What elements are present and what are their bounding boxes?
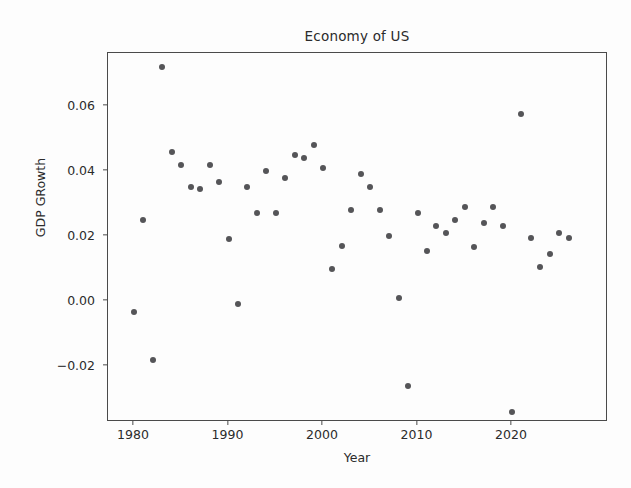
data-point [150,357,156,363]
data-point [566,235,572,241]
x-tick-mark [132,421,133,425]
data-point [311,142,317,148]
data-point [169,149,175,155]
data-point [273,210,279,216]
data-point [433,223,439,229]
data-point [518,111,524,117]
y-tick-label: 0.06 [67,98,95,113]
data-point [329,266,335,272]
data-point [159,64,165,70]
y-axis-label: GDP GRowth [33,128,48,268]
data-point [320,165,326,171]
y-tick-mark [103,364,107,365]
y-tick-mark [103,299,107,300]
scatter-plot-axes [107,52,607,421]
x-tick-label: 2000 [306,427,338,442]
x-tick-mark [416,421,417,425]
data-point [197,186,203,192]
data-point [216,179,222,185]
data-point [556,230,562,236]
data-point [547,251,553,257]
y-tick-label: 0.00 [67,293,95,308]
data-point [415,210,421,216]
data-point [367,184,373,190]
y-tick-mark [103,104,107,105]
y-tick-label: 0.04 [67,163,95,178]
data-point [235,301,241,307]
data-point [537,264,543,270]
y-tick-mark [103,169,107,170]
data-point [490,204,496,210]
data-point [528,235,534,241]
data-point [386,233,392,239]
data-point [178,162,184,168]
data-point [301,155,307,161]
x-tick-label: 2020 [495,427,527,442]
x-tick-label: 1980 [117,427,149,442]
data-point [358,171,364,177]
data-point [424,248,430,254]
x-tick-label: 1990 [212,427,244,442]
y-tick-label: −0.02 [57,358,95,373]
x-axis-label: Year [107,450,607,465]
data-point [500,223,506,229]
data-point [471,244,477,250]
data-point [188,184,194,190]
data-point [509,409,515,415]
data-point [140,217,146,223]
data-point [405,383,411,389]
y-tick-label: 0.02 [67,228,95,243]
data-point [348,207,354,213]
matplotlib-figure: Economy of US −0.020.000.020.040.06 1980… [0,0,631,488]
page-title: Economy of US [107,28,607,44]
x-tick-mark [510,421,511,425]
data-point [452,217,458,223]
data-point [282,175,288,181]
data-point [254,210,260,216]
x-tick-mark [227,421,228,425]
data-point [377,207,383,213]
x-tick-label: 2010 [401,427,433,442]
data-point [443,230,449,236]
data-point [131,309,137,315]
data-point [244,184,250,190]
data-point [339,243,345,249]
data-point [207,162,213,168]
data-point [396,295,402,301]
data-point [462,204,468,210]
data-point [263,168,269,174]
x-tick-mark [321,421,322,425]
y-tick-mark [103,234,107,235]
data-point [292,152,298,158]
data-point [481,220,487,226]
data-point [226,236,232,242]
